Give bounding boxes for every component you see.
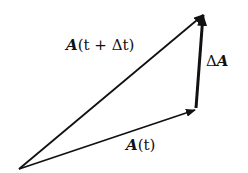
label-delta-a-prefix: Δ xyxy=(206,52,217,70)
label-a-t-dt: A(t + Δt) xyxy=(66,36,134,54)
vector-arrows xyxy=(0,0,248,173)
label-delta-a-symbol: A xyxy=(217,52,229,70)
label-a-t-symbol: A xyxy=(126,136,138,154)
vector-delta-a xyxy=(196,15,203,108)
label-a-t: A(t) xyxy=(126,136,155,154)
label-a-t-arg: (t) xyxy=(138,136,156,154)
label-delta-a: ΔA xyxy=(206,52,228,70)
vector-a-t xyxy=(19,110,195,169)
label-a-t-dt-symbol: A xyxy=(66,36,78,54)
vector-diagram: A(t + Δt) ΔA A(t) xyxy=(0,0,248,173)
label-a-t-dt-arg: (t + Δt) xyxy=(78,36,135,54)
